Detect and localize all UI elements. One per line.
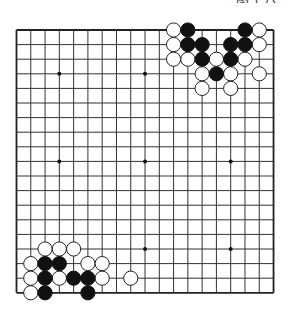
white-stone [209, 52, 223, 66]
white-stone [24, 271, 38, 285]
black-stone [195, 52, 209, 66]
black-stone [38, 271, 52, 285]
black-stone [209, 67, 223, 81]
white-stone [238, 52, 252, 66]
black-stone [195, 38, 209, 52]
black-stone [52, 257, 66, 271]
black-stone [38, 257, 52, 271]
white-stone [252, 67, 266, 81]
black-stone [81, 286, 95, 300]
white-stone [252, 38, 266, 52]
black-stone [238, 23, 252, 37]
black-stone [81, 271, 95, 285]
white-stone [224, 67, 238, 81]
black-stone [181, 23, 195, 37]
white-stone [95, 257, 109, 271]
white-stone [67, 242, 81, 256]
white-stone [166, 52, 180, 66]
black-stone [224, 38, 238, 52]
white-stone [24, 257, 38, 271]
star-point [229, 159, 233, 163]
white-stone [81, 257, 95, 271]
white-stone [195, 67, 209, 81]
star-point [229, 247, 233, 251]
black-stone [224, 52, 238, 66]
star-point [143, 247, 147, 251]
white-stone [38, 242, 52, 256]
white-stone [252, 23, 266, 37]
black-stone [67, 271, 81, 285]
star-point [57, 159, 61, 163]
black-stone [238, 38, 252, 52]
white-stone [52, 242, 66, 256]
white-stone [24, 286, 38, 300]
star-point [57, 72, 61, 76]
white-stone [124, 271, 138, 285]
white-stone [224, 81, 238, 95]
white-stone [181, 52, 195, 66]
star-point [143, 72, 147, 76]
star-point [143, 159, 147, 163]
white-stone [195, 81, 209, 95]
black-stone [181, 38, 195, 52]
white-stone [166, 23, 180, 37]
go-board [0, 0, 290, 319]
white-stone [52, 271, 66, 285]
white-stone [166, 38, 180, 52]
black-stone [38, 286, 52, 300]
white-stone [95, 271, 109, 285]
